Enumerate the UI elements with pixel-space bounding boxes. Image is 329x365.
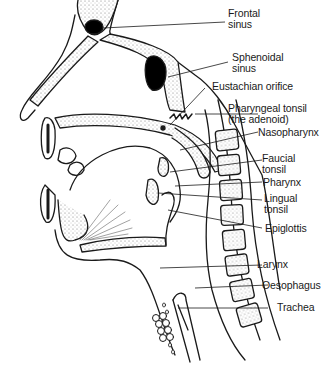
label-eustachian-orifice: Eustachian orifice <box>212 81 293 92</box>
label-nasopharynx: Nasopharynx <box>258 127 319 138</box>
label-frontal-sinus: Frontal sinus <box>228 8 260 30</box>
label-sphenoidal-sinus: Sphenoidal sinus <box>232 52 284 74</box>
lingual-tonsil-shape <box>146 179 158 204</box>
faucial-tonsil-shape <box>158 158 169 177</box>
label-epiglottis: Epiglottis <box>265 223 307 234</box>
sphenoidal-sinus-cavity <box>145 56 166 90</box>
head-neck-diagram: Frontal sinus Sphenoidal sinus Eustachia… <box>0 0 329 365</box>
label-pharynx: Pharynx <box>263 177 301 188</box>
frontal-sinus-cavity <box>85 20 103 34</box>
label-oesophagus: Oesophagus <box>262 280 321 291</box>
label-faucial-tonsil: Faucial tonsil <box>262 153 295 175</box>
label-larynx: Larynx <box>257 259 288 270</box>
label-trachea: Trachea <box>277 302 314 313</box>
label-pharyngeal-tonsil: Pharyngeal tonsil (the adenoid) <box>228 103 307 125</box>
label-lingual-tonsil: Lingual tonsil <box>264 193 297 215</box>
